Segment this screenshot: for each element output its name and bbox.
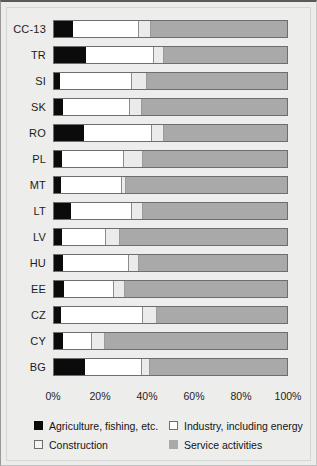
bar-segment-industry [71,203,132,219]
chart-bar-row: CC-13 [1,16,317,42]
bar-segment-services [157,307,288,323]
y-axis-label-si: SI [1,68,46,94]
bar-segment-industry [86,47,154,63]
stacked-bar [53,202,288,220]
bar-segment-construction [132,203,143,219]
legend-swatch-services-icon [169,440,178,449]
bar-segment-services [126,177,288,193]
bar-segment-industry [84,125,152,141]
bar-segment-services [143,151,288,167]
chart-bar-row: RO [1,120,317,146]
chart-bar-row: BG [1,354,317,380]
y-axis-label-cz: CZ [1,302,46,328]
bar-segment-agriculture [54,229,62,245]
stacked-bar [53,72,288,90]
stacked-bar [53,176,288,194]
bar-segment-industry [63,99,130,115]
x-axis-tick-40: 40% [136,390,157,402]
bar-segment-services [105,333,288,349]
chart-legend: Agriculture, fishing, etc. Industry, inc… [1,416,317,454]
bar-segment-services [142,99,288,115]
legend-item-construction: Construction [34,435,108,454]
bar-segment-services [151,21,288,37]
bar-segment-industry [63,333,92,349]
stacked-bar [53,254,288,272]
legend-label-industry: Industry, including energy [184,420,303,432]
bar-segment-services [120,229,288,245]
chart-bar-row: SI [1,68,317,94]
legend-swatch-construction-icon [34,440,43,449]
bar-segment-agriculture [54,125,84,141]
legend-swatch-agriculture-icon [34,421,43,430]
bar-segment-agriculture [54,255,63,271]
y-axis-label-bg: BG [1,354,46,380]
y-axis-label-ro: RO [1,120,46,146]
legend-item-services: Service activities [169,435,262,454]
bar-segment-agriculture [54,99,63,115]
y-axis-label-pl: PL [1,146,46,172]
bar-segment-agriculture [54,21,73,37]
bar-segment-construction [152,125,164,141]
bar-segment-construction [154,47,164,63]
bar-segment-agriculture [54,203,71,219]
stacked-bar [53,306,288,324]
stacked-bar [53,98,288,116]
bar-segment-agriculture [54,307,61,323]
chart-bar-row: SK [1,94,317,120]
stacked-bar [53,280,288,298]
bar-segment-construction [143,307,157,323]
stacked-bar [53,20,288,38]
chart-bar-row: TR [1,42,317,68]
stacked-bar [53,150,288,168]
y-axis-label-tr: TR [1,42,46,68]
stacked-bar [53,124,288,142]
chart-bar-row: HU [1,250,317,276]
bar-segment-industry [60,73,132,89]
x-axis-tick-0: 0% [45,390,60,402]
legend-item-industry: Industry, including energy [169,416,303,435]
bar-segment-services [125,281,288,297]
chart-bar-row: LT [1,198,317,224]
legend-row-2: Construction Service activities [1,435,317,454]
bar-segment-industry [73,21,139,37]
bar-segment-industry [62,151,124,167]
chart-bar-row: LV [1,224,317,250]
chart-bar-row: CY [1,328,317,354]
bar-segment-agriculture [54,359,85,375]
chart-bar-row: EE [1,276,317,302]
chart-bar-row: CZ [1,302,317,328]
bar-segment-construction [114,281,125,297]
bar-segment-construction [92,333,105,349]
bar-segment-agriculture [54,151,62,167]
bar-segment-services [164,47,288,63]
chart-bars-container: CC-13TRSISKROPLMTLTLVHUEECZCYBG [1,16,317,380]
bar-segment-services [164,125,288,141]
legend-label-construction: Construction [49,439,108,451]
legend-item-agriculture: Agriculture, fishing, etc. [34,416,158,435]
bar-segment-services [139,255,288,271]
chart-bar-row: MT [1,172,317,198]
y-axis-label-cc-13: CC-13 [1,16,46,42]
y-axis-label-sk: SK [1,94,46,120]
chart-figure: CC-13TRSISKROPLMTLTLVHUEECZCYBG 0%20%40%… [0,0,317,466]
bar-segment-services [143,203,288,219]
stacked-bar [53,228,288,246]
legend-label-agriculture: Agriculture, fishing, etc. [49,420,158,432]
y-axis-label-lv: LV [1,224,46,250]
bar-segment-construction [124,151,143,167]
y-axis-label-cy: CY [1,328,46,354]
x-axis-tick-60: 60% [183,390,204,402]
stacked-bar [53,358,288,376]
x-axis-tick-100: 100% [275,390,302,402]
chart-bar-row: PL [1,146,317,172]
y-axis-label-mt: MT [1,172,46,198]
y-axis-label-ee: EE [1,276,46,302]
x-axis-tick-20: 20% [89,390,110,402]
bar-segment-industry [61,307,143,323]
bar-segment-industry [64,281,114,297]
bar-segment-industry [85,359,142,375]
bar-segment-construction [139,21,151,37]
bar-segment-services [150,359,288,375]
bar-segment-construction [142,359,150,375]
bar-segment-services [147,73,288,89]
